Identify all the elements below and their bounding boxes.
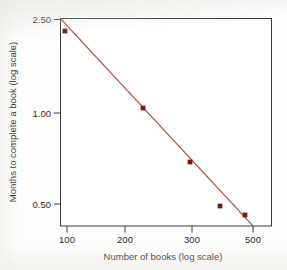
plot-frame xyxy=(61,19,272,227)
data-point xyxy=(188,160,193,165)
scatter-plot: 2.50 1.00 0.50 100 200 300 500 Number of… xyxy=(0,0,287,270)
x-axis-ticks xyxy=(67,226,253,233)
y-tick-label: 1.00 xyxy=(33,108,52,119)
data-point xyxy=(218,204,223,209)
x-tick-label: 300 xyxy=(184,234,200,245)
y-tick-label: 2.50 xyxy=(33,14,52,25)
data-point xyxy=(243,213,248,218)
y-axis-title: Months to complete a book (log scale) xyxy=(7,42,18,203)
y-axis-ticks xyxy=(54,20,61,205)
x-tick-label: 100 xyxy=(59,234,75,245)
data-point xyxy=(141,106,146,111)
data-point xyxy=(63,29,68,34)
figure-container: 2.50 1.00 0.50 100 200 300 500 Number of… xyxy=(0,0,287,270)
x-tick-label: 500 xyxy=(245,234,261,245)
x-axis-title: Number of books (log scale) xyxy=(104,251,223,262)
x-tick-label: 200 xyxy=(117,234,133,245)
y-tick-label: 0.50 xyxy=(33,199,52,210)
